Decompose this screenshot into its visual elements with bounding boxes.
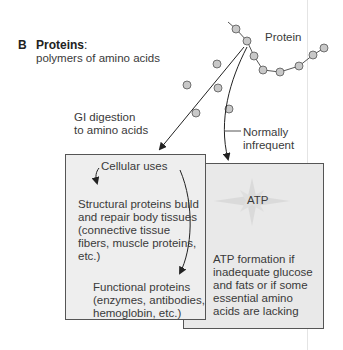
digestion-label-line2: to amino acids [74,124,148,137]
digestion-label-line1: GI digestion [74,111,148,124]
infrequent-label: Normally infrequent [243,126,294,152]
atp-star-label: ATP [247,194,269,207]
cellular-uses-heading: Cellular uses [101,160,167,173]
functional-proteins-text: Functional proteins (enzymes, antibodies… [93,281,205,320]
cellular-uses-arrow [96,168,99,183]
atp-formation-text: ATP formation if inadequate glucose and … [213,253,321,318]
digestion-label: GI digestion to amino acids [74,111,148,137]
infrequent-label-line1: Normally [243,126,294,139]
digestion-arrow [160,47,244,149]
structural-proteins-text: Structural proteins build and repair bod… [78,198,200,263]
protein-label: Protein [265,31,301,44]
infrequent-label-line2: infrequent [243,139,294,152]
